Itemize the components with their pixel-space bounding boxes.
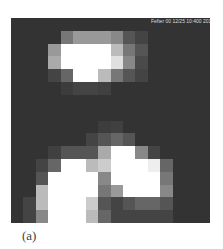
image-pixel [198, 121, 210, 134]
image-pixel [61, 31, 73, 44]
image-pixel [185, 56, 197, 69]
image-pixel [73, 121, 85, 134]
image-pixel [86, 95, 98, 108]
image-pixel [198, 95, 210, 108]
image-pixel [48, 172, 60, 185]
image-pixel [36, 108, 48, 121]
image-pixel [36, 146, 48, 159]
image-pixel [61, 95, 73, 108]
image-pixel [36, 44, 48, 57]
image-pixel [23, 31, 35, 44]
image-pixel [48, 95, 60, 108]
image-pixel [61, 69, 73, 82]
image-pixel [111, 108, 123, 121]
figure-label: (a) [22, 228, 36, 244]
image-pixel [11, 82, 23, 95]
image-pixel [135, 197, 147, 210]
image-pixel [61, 133, 73, 146]
image-pixel [61, 159, 73, 172]
image-pixel [11, 172, 23, 185]
image-pixel [148, 69, 160, 82]
image-pixel [86, 82, 98, 95]
image-pixel [48, 159, 60, 172]
image-pixel [123, 133, 135, 146]
image-pixel [86, 159, 98, 172]
image-pixel [160, 82, 172, 95]
image-pixel [198, 197, 210, 210]
image-pixel [148, 121, 160, 134]
image-pixel [185, 121, 197, 134]
image-pixel [98, 172, 110, 185]
image-pixel [48, 69, 60, 82]
image-pixel [135, 31, 147, 44]
image-pixel [36, 133, 48, 146]
image-pixel [98, 82, 110, 95]
image-pixel [11, 185, 23, 198]
image-pixel [48, 133, 60, 146]
image-pixel [86, 197, 98, 210]
image-pixel [173, 159, 185, 172]
image-pixel [23, 159, 35, 172]
image-pixel [48, 44, 60, 57]
image-pixel [173, 210, 185, 223]
image-pixel [173, 31, 185, 44]
image-pixel [36, 56, 48, 69]
image-pixel [160, 146, 172, 159]
image-pixel [160, 133, 172, 146]
image-pixel [123, 185, 135, 198]
image-pixel [173, 44, 185, 57]
image-pixel [48, 146, 60, 159]
image-pixel [185, 185, 197, 198]
image-pixel [135, 159, 147, 172]
image-pixel [11, 108, 23, 121]
image-pixel [61, 82, 73, 95]
image-pixel [123, 31, 135, 44]
image-pixel [36, 31, 48, 44]
image-pixel [73, 56, 85, 69]
image-pixel [73, 133, 85, 146]
image-pixel [123, 69, 135, 82]
image-pixel [61, 185, 73, 198]
image-pixel [185, 31, 197, 44]
image-pixel [123, 82, 135, 95]
image-pixel [198, 56, 210, 69]
image-pixel [23, 82, 35, 95]
image-pixel [23, 69, 35, 82]
image-pixel [86, 185, 98, 198]
image-pixel [61, 56, 73, 69]
image-pixel [98, 18, 110, 31]
image-pixel [111, 197, 123, 210]
image-pixel [148, 31, 160, 44]
image-pixel [98, 95, 110, 108]
image-pixel [73, 95, 85, 108]
image-pixel [11, 31, 23, 44]
image-pixel [11, 197, 23, 210]
image-pixel [135, 210, 147, 223]
image-pixel [86, 172, 98, 185]
image-pixel [185, 44, 197, 57]
image-pixel [23, 185, 35, 198]
image-pixel [73, 146, 85, 159]
image-pixel [160, 44, 172, 57]
image-pixel [198, 69, 210, 82]
image-pixel [111, 172, 123, 185]
image-pixel [198, 159, 210, 172]
image-pixel [123, 56, 135, 69]
image-pixel [86, 44, 98, 57]
image-pixel [86, 146, 98, 159]
image-pixel [185, 95, 197, 108]
image-pixel [98, 133, 110, 146]
image-pixel [160, 108, 172, 121]
image-pixel [185, 108, 197, 121]
image-pixel [36, 82, 48, 95]
image-pixel [160, 210, 172, 223]
image-pixel [48, 185, 60, 198]
image-pixel [23, 133, 35, 146]
image-pixel [160, 56, 172, 69]
image-pixel [86, 56, 98, 69]
image-pixel [11, 18, 23, 31]
image-pixel [61, 172, 73, 185]
image-pixel [11, 159, 23, 172]
image-pixel [185, 133, 197, 146]
image-pixel [86, 69, 98, 82]
